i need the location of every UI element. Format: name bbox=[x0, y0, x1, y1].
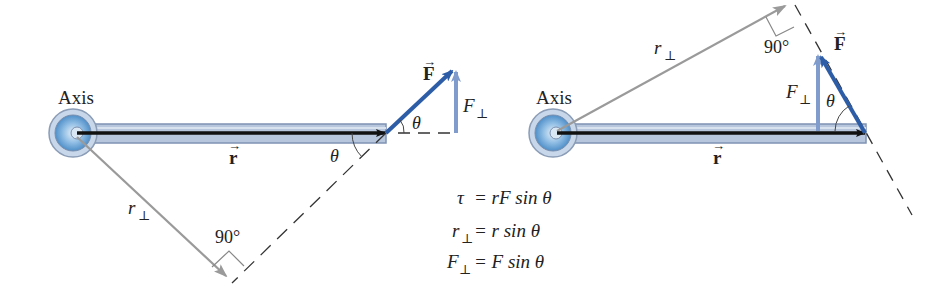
theta-label: θ bbox=[826, 91, 835, 111]
r-perp-label: r bbox=[128, 197, 136, 218]
right-angle-marker bbox=[212, 251, 244, 267]
svg-text:⊥: ⊥ bbox=[461, 231, 473, 246]
theta-label-force: θ bbox=[412, 113, 421, 133]
f-perp-label: F bbox=[785, 81, 798, 102]
right-angle-marker bbox=[766, 17, 794, 36]
f-perp-label: F bbox=[462, 95, 475, 116]
perp-subscript: ⊥ bbox=[664, 48, 676, 63]
right-angle-label: 90° bbox=[764, 37, 789, 57]
axis-label: Axis bbox=[536, 87, 572, 108]
perp-subscript: ⊥ bbox=[799, 92, 811, 107]
svg-text:F: F bbox=[446, 251, 459, 272]
torque-diagram: Axis r → r ⊥ 90° θ F ⊥ F bbox=[0, 0, 951, 293]
vector-arrow-mark: → bbox=[423, 54, 436, 69]
svg-text:= F sin θ: = F sin θ bbox=[474, 251, 544, 272]
perp-subscript: ⊥ bbox=[476, 106, 488, 121]
svg-text:⊥: ⊥ bbox=[459, 262, 471, 277]
svg-text:= r sin θ: = r sin θ bbox=[474, 220, 540, 241]
equation-f-perp: F ⊥ = F sin θ bbox=[446, 251, 544, 277]
r-perp-vector bbox=[77, 137, 226, 276]
vector-arrow-mark: → bbox=[712, 138, 725, 153]
equation-r-perp: r ⊥ = r sin θ bbox=[452, 220, 540, 246]
line-of-action bbox=[232, 133, 386, 283]
r-perp-label: r bbox=[654, 37, 662, 58]
svg-text:τ: τ bbox=[457, 187, 465, 208]
perp-subscript: ⊥ bbox=[138, 208, 150, 223]
equations: τ = rF sin θ r ⊥ = r sin θ F ⊥ = F sin θ bbox=[446, 187, 552, 277]
left-diagram: Axis r → r ⊥ 90° θ F ⊥ F bbox=[49, 54, 488, 283]
right-diagram: Axis r ⊥ 90° r → F ⊥ F → θ bbox=[529, 5, 912, 215]
svg-text:= rF sin θ: = rF sin θ bbox=[474, 187, 552, 208]
right-angle-label: 90° bbox=[215, 227, 240, 247]
r-perp-vector bbox=[557, 6, 785, 131]
theta-label-line: θ bbox=[330, 146, 339, 166]
svg-text:r: r bbox=[452, 220, 460, 241]
equation-torque: τ = rF sin θ bbox=[457, 187, 552, 208]
vector-arrow-mark: → bbox=[834, 24, 847, 39]
vector-arrow-mark: → bbox=[228, 138, 241, 153]
axis-label: Axis bbox=[58, 87, 94, 108]
